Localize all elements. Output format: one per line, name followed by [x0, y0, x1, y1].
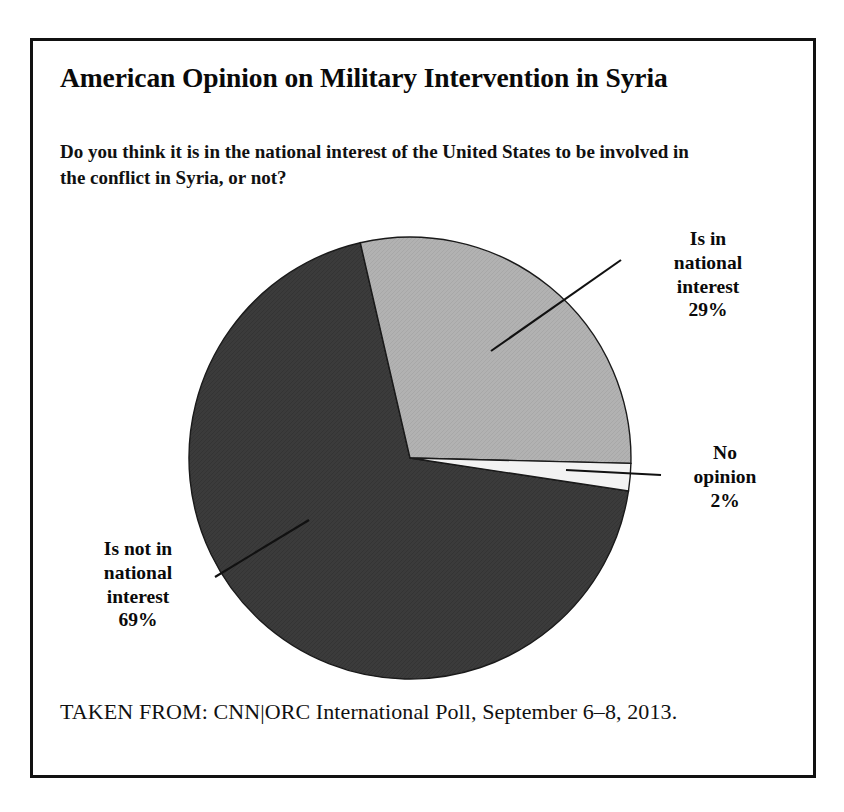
source-attribution: TAKEN FROM: CNN|ORC International Poll, … — [60, 699, 790, 725]
pie-chart-svg — [33, 41, 813, 775]
figure-frame: American Opinion on Military Interventio… — [30, 38, 816, 778]
pie-label-not-in-national-interest: Is not in national interest 69% — [53, 537, 223, 632]
pie-label-no-opinion: No opinion 2% — [655, 441, 795, 512]
pie-chart: Is in national interest 29% No opinion 2… — [33, 41, 813, 775]
pie-label-in-national-interest: Is in national interest 29% — [633, 227, 783, 322]
figure-page: American Opinion on Military Interventio… — [0, 0, 844, 812]
